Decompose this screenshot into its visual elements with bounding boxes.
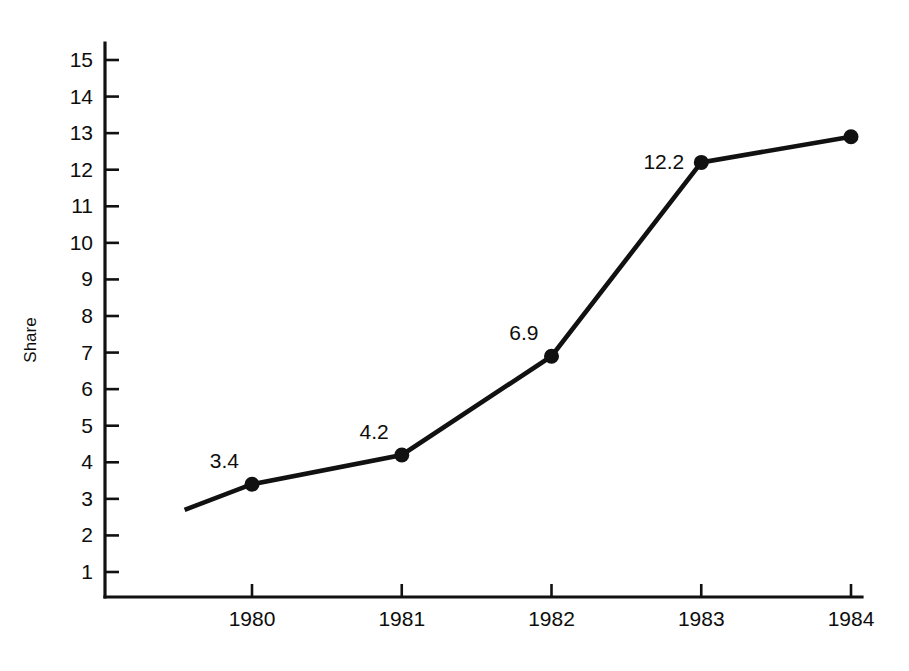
x-axis-group: 19801981198219831984 bbox=[105, 584, 875, 630]
y-tick-label: 13 bbox=[70, 121, 93, 144]
data-point-value-label: 4.2 bbox=[360, 420, 389, 443]
line-chart: 151413121110987654321 198019811982198319… bbox=[0, 0, 909, 671]
y-tick-label: 1 bbox=[81, 560, 93, 583]
data-point-markers bbox=[245, 129, 859, 491]
y-tick-label: 14 bbox=[70, 85, 94, 108]
data-point-marker bbox=[844, 129, 859, 144]
y-axis-title: Share bbox=[21, 317, 40, 362]
y-tick-label: 3 bbox=[81, 487, 93, 510]
x-axis-ticks bbox=[252, 584, 851, 597]
data-point-value-label: 3.4 bbox=[210, 449, 240, 472]
y-axis-tick-labels: 151413121110987654321 bbox=[70, 48, 94, 583]
y-tick-label: 9 bbox=[81, 267, 93, 290]
x-axis-tick-labels: 19801981198219831984 bbox=[229, 607, 875, 630]
y-tick-label: 7 bbox=[81, 341, 93, 364]
y-tick-label: 2 bbox=[81, 523, 93, 546]
x-tick-label: 1982 bbox=[528, 607, 575, 630]
x-tick-label: 1981 bbox=[378, 607, 425, 630]
data-point-marker bbox=[544, 349, 559, 364]
y-tick-label: 8 bbox=[81, 304, 93, 327]
x-tick-label: 1983 bbox=[678, 607, 725, 630]
x-tick-label: 1980 bbox=[229, 607, 276, 630]
y-axis-group: 151413121110987654321 bbox=[70, 43, 119, 597]
y-axis-ticks bbox=[105, 60, 119, 572]
y-tick-label: 11 bbox=[71, 194, 93, 217]
y-tick-label: 10 bbox=[70, 231, 93, 254]
y-tick-label: 15 bbox=[70, 48, 93, 71]
data-point-marker bbox=[394, 448, 409, 463]
chart-canvas: 151413121110987654321 198019811982198319… bbox=[0, 0, 909, 671]
data-point-marker bbox=[245, 477, 260, 492]
y-tick-label: 12 bbox=[70, 158, 93, 181]
data-point-value-label: 12.2 bbox=[643, 150, 684, 173]
x-tick-label: 1984 bbox=[828, 607, 875, 630]
y-tick-label: 4 bbox=[81, 450, 93, 473]
y-tick-label: 5 bbox=[81, 414, 93, 437]
data-point-value-label: 6.9 bbox=[509, 321, 538, 344]
data-point-marker bbox=[694, 155, 709, 170]
y-tick-label: 6 bbox=[81, 377, 93, 400]
